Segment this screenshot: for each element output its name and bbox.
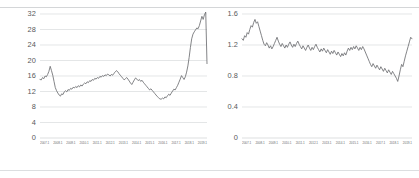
x-tick-label: 2016.1 (158, 142, 167, 145)
x-tick-label: 2010.1 (80, 142, 89, 145)
x-tick-label: 2009.1 (66, 142, 75, 145)
x-tick-label: 2019.1 (403, 142, 412, 145)
y-tick-label: 1.6 (227, 10, 238, 17)
x-tick-label: 2012.1 (309, 142, 318, 145)
y-tick-label: 28 (28, 26, 36, 33)
chart-left-svg (40, 14, 207, 138)
chart-left-series-line (40, 12, 207, 99)
x-tick-label: 2011.1 (93, 142, 102, 145)
x-tick-label: 2018.1 (185, 142, 194, 145)
x-tick-label: 2007.1 (242, 142, 251, 145)
chart-right-plot-area (242, 14, 412, 138)
x-tick-label: 2012.1 (106, 142, 115, 145)
chart-right-svg (242, 14, 412, 138)
y-tick-label: 20 (28, 57, 36, 64)
x-tick-label: 2014.1 (336, 142, 345, 145)
x-tick-label: 2015.1 (145, 142, 154, 145)
chart-right-gridlines (242, 14, 412, 138)
chart-left-plot-area (40, 14, 207, 138)
y-tick-label: 0 (32, 134, 36, 141)
x-tick-label: 2008.1 (255, 142, 264, 145)
chart-right-y-axis: 00.40.81.21.6 (212, 14, 238, 164)
x-tick-label: 2009.1 (269, 142, 278, 145)
y-tick-label: 0.4 (227, 103, 238, 110)
y-tick-label: 0 (234, 134, 238, 141)
x-tick-label: 2019.1 (198, 142, 207, 145)
x-tick-label: 2013.1 (119, 142, 128, 145)
chart-left: 048121620242832 2007.12008.12009.12010.1… (8, 14, 210, 164)
x-tick-label: 2016.1 (363, 142, 372, 145)
chart-right-x-axis: 2007.12008.12009.12010.12011.12012.12013… (242, 142, 412, 154)
x-tick-label: 2015.1 (349, 142, 358, 145)
y-tick-label: 24 (28, 41, 36, 48)
x-tick-label: 2010.1 (282, 142, 291, 145)
x-tick-label: 2011.1 (296, 142, 305, 145)
x-tick-label: 2008.1 (53, 142, 62, 145)
bottom-divider-rule (0, 170, 419, 171)
chart-left-y-axis: 048121620242832 (14, 14, 36, 164)
x-tick-label: 2014.1 (132, 142, 141, 145)
x-tick-label: 2018.1 (389, 142, 398, 145)
chart-right-series-line (242, 19, 412, 81)
x-tick-label: 2007.1 (40, 142, 49, 145)
y-tick-label: 0.8 (227, 72, 238, 79)
x-tick-label: 2013.1 (322, 142, 331, 145)
x-tick-label: 2017.1 (171, 142, 180, 145)
chart-left-x-axis: 2007.12008.12009.12010.12011.12012.12013… (40, 142, 207, 154)
y-tick-label: 12 (28, 88, 36, 95)
y-tick-label: 1.2 (227, 41, 238, 48)
top-divider-rule (0, 7, 419, 8)
y-tick-label: 16 (28, 72, 36, 79)
y-tick-label: 32 (28, 10, 36, 17)
chart-right: 00.40.81.21.6 2007.12008.12009.12010.120… (210, 14, 415, 164)
charts-container: 048121620242832 2007.12008.12009.12010.1… (0, 14, 419, 164)
x-tick-label: 2017.1 (376, 142, 385, 145)
figure-canvas: 048121620242832 2007.12008.12009.12010.1… (0, 0, 419, 178)
y-tick-label: 4 (32, 119, 36, 126)
y-tick-label: 8 (32, 103, 36, 110)
